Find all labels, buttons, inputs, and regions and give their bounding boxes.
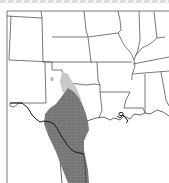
primary-range-area xyxy=(44,88,89,183)
isolated-record-spot xyxy=(50,77,53,81)
state-borders xyxy=(7,11,169,183)
range-map xyxy=(0,0,169,183)
